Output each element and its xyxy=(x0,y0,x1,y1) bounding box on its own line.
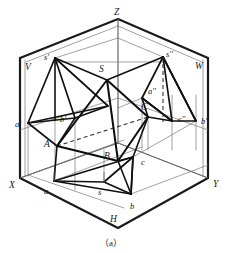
rail-h-front-left xyxy=(28,175,124,208)
dot-s-dprime xyxy=(162,56,164,58)
edge-SA xyxy=(57,80,107,146)
dot-C xyxy=(147,116,149,118)
h-projection xyxy=(54,157,133,194)
label-X: X xyxy=(9,181,15,191)
rail-depth-a xyxy=(54,147,142,181)
v-projection xyxy=(28,58,108,123)
label-s-dprime: s'' xyxy=(166,50,173,59)
v-proj-outline xyxy=(28,58,108,123)
label-V: V xyxy=(25,63,31,73)
label-s-prime: s' xyxy=(44,53,49,62)
label-Y: Y xyxy=(213,180,218,190)
box-rail-top-left xyxy=(26,26,118,62)
label-b: b xyxy=(130,202,134,211)
label-c: c xyxy=(141,158,145,167)
hidden-pyramid-ac xyxy=(57,117,148,146)
ray-S-to-sdprime xyxy=(107,57,163,80)
label-s: s xyxy=(98,188,101,197)
ray-A-to-a xyxy=(54,146,57,181)
label-A: A xyxy=(44,140,50,150)
label-b-dprime: b'' xyxy=(201,117,209,126)
figure-caption: （a） xyxy=(100,236,122,249)
dot-A xyxy=(56,145,58,147)
dot-b-lower xyxy=(130,193,132,195)
rail-s-top-right xyxy=(118,38,163,57)
rail-depth-b xyxy=(131,165,208,194)
label-a-prime: a' xyxy=(15,120,21,129)
label-S: S xyxy=(99,65,104,75)
h-proj-outline xyxy=(54,157,133,194)
label-a: a xyxy=(44,187,48,196)
label-C: C xyxy=(141,103,147,113)
label-a-dprime: a'' xyxy=(148,87,156,96)
ray-A-to-aprime xyxy=(28,123,57,146)
box-rail-top-right xyxy=(118,26,202,62)
label-Z: Z xyxy=(114,8,119,18)
dot-s-prime xyxy=(54,57,56,59)
projector-rays xyxy=(28,57,172,194)
label-W: W xyxy=(195,62,203,72)
dot-B xyxy=(117,160,119,162)
label-H: H xyxy=(110,215,117,225)
edge-BC xyxy=(118,117,148,161)
label-b-prime: b' xyxy=(60,115,66,124)
dot-S xyxy=(106,79,108,81)
label-B: B xyxy=(104,152,110,162)
h-proj-sa xyxy=(54,181,104,182)
label-c-dprime: c'' xyxy=(178,115,185,124)
edge-SB xyxy=(107,80,118,161)
